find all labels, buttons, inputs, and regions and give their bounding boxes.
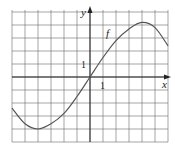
y-axis-arrow-icon	[88, 6, 93, 13]
curve-label: f	[106, 27, 111, 39]
x-axis-label: x	[161, 78, 167, 90]
y-unit-tick-label: 1	[81, 59, 86, 70]
y-axis-label: y	[80, 6, 86, 18]
function-graph: y x f 1 1	[0, 0, 175, 149]
x-unit-tick-label: 1	[100, 80, 105, 91]
